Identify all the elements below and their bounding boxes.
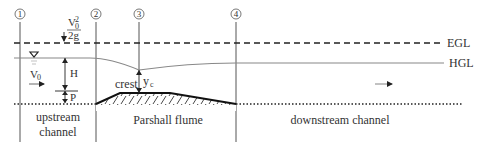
- upstream-velocity-label: V 0: [29, 68, 44, 84]
- hgl-label: HGL: [449, 56, 474, 70]
- head-dimension: H: [62, 58, 78, 90]
- section-marker-3: 3: [134, 9, 144, 19]
- section-marker-4: 4: [231, 9, 241, 19]
- critical-depth-dimension: crest y c: [115, 70, 154, 93]
- svg-text:H: H: [70, 67, 78, 79]
- flume-label: Parshall flume: [133, 113, 203, 127]
- egl-label: EGL: [447, 36, 470, 50]
- svg-text:0: 0: [37, 73, 41, 82]
- svg-text:4: 4: [234, 9, 239, 19]
- svg-text:P: P: [70, 91, 76, 103]
- svg-text:c: c: [150, 80, 154, 89]
- hgl-line: [14, 58, 444, 70]
- svg-text:y: y: [143, 74, 149, 88]
- weir-height-dimension: P: [55, 91, 78, 103]
- velocity-head-label: V 2 0 2g: [64, 15, 81, 41]
- svg-text:2g: 2g: [68, 29, 80, 41]
- parshall-flume-diagram: 1 2 3 4 EGL HGL V 2 0 2g V 0: [0, 0, 485, 148]
- upstream-label-line2: channel: [39, 125, 77, 139]
- upstream-label-line1: upstream: [36, 110, 81, 124]
- section-marker-2: 2: [91, 9, 101, 19]
- downstream-label: downstream channel: [291, 113, 391, 127]
- svg-text:1: 1: [18, 9, 23, 19]
- section-marker-1: 1: [15, 9, 25, 19]
- svg-text:3: 3: [137, 9, 142, 19]
- svg-text:crest: crest: [115, 77, 138, 91]
- svg-text:2: 2: [94, 9, 99, 19]
